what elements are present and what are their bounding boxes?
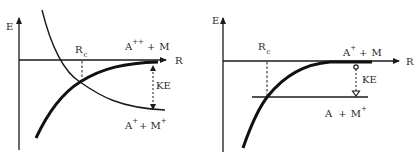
left-upper-asymptote-label: A+++M [124,38,170,52]
right-upper-asymptote-label: A++M [342,44,382,58]
right-ke-arrowhead-down [353,91,360,96]
right-attractive-curve [243,62,372,148]
left-lower-asymptote-label: A++M+ [124,117,167,131]
right-y-axis-label: E [212,15,219,26]
left-y-axis-label: E [6,21,13,32]
left-diagram: E R Rc A+++M KE A++M+ [6,10,183,150]
left-ke-arrowhead-up [150,65,156,71]
potential-energy-diagrams: E R Rc A+++M KE A++M+ E R [0,0,417,166]
left-x-axis-label: R [175,55,183,66]
left-rc-label: Rc [75,44,88,59]
right-lower-asymptote-label: A+M+ [324,105,367,119]
right-x-axis-label: R [406,56,414,67]
right-ke-arrowhead-up [354,65,358,69]
left-ke-label: KE [156,80,171,91]
right-diagram: E R Rc A++M KE A+M+ [212,15,414,152]
right-ke-label: KE [362,74,377,85]
right-rc-label: Rc [258,41,271,56]
